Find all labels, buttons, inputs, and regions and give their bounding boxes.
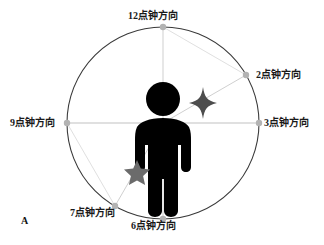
five-point-star	[124, 160, 150, 185]
direction-label-3: 3点钟方向	[264, 118, 309, 128]
panel-letter: A	[21, 216, 28, 226]
marker-9[interactable]	[64, 120, 70, 126]
pictogram-head	[146, 82, 180, 116]
direction-label-12: 12点钟方向	[128, 11, 178, 21]
direction-label-7: 7点钟方向	[70, 208, 115, 218]
marker-12[interactable]	[160, 24, 166, 30]
marker-3[interactable]	[256, 120, 262, 126]
marker-2[interactable]	[243, 72, 249, 78]
direction-label-6: 6点钟方向	[131, 221, 176, 231]
figure-panel: 12点钟方向 2点钟方向 3点钟方向 6点钟方向 7点钟方向 9点钟方向 A	[0, 0, 324, 245]
chord-12-2	[163, 27, 246, 75]
five-point-star-shape	[124, 160, 150, 185]
sparkle-star-shape	[189, 87, 217, 119]
direction-label-2: 2点钟方向	[256, 70, 301, 80]
sparkle-star	[189, 87, 217, 119]
direction-label-9: 9点钟方向	[10, 118, 55, 128]
chord-7-9	[67, 123, 115, 206]
